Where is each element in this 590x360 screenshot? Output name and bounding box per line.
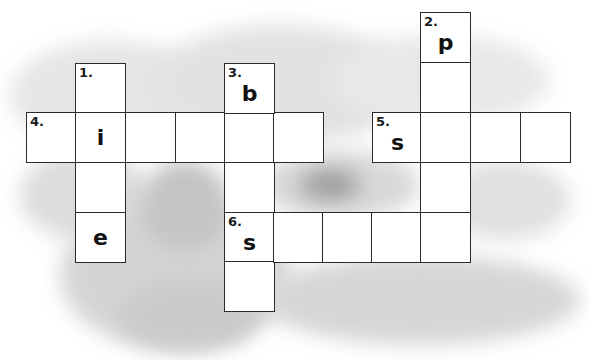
crossword-cell[interactable]: 2.p [420, 12, 471, 63]
crossword-cell[interactable] [420, 212, 471, 263]
crossword-cell[interactable] [322, 212, 373, 263]
crossword-cell[interactable] [273, 212, 324, 263]
clue-number: 2. [424, 14, 438, 29]
clue-number: 6. [228, 214, 242, 229]
clue-number: 5. [376, 114, 390, 129]
crossword-cell[interactable] [224, 112, 275, 163]
clue-number: 1. [79, 65, 93, 80]
given-letter: i [76, 125, 125, 150]
crossword-cell[interactable] [224, 162, 275, 213]
given-letter: s [373, 130, 422, 155]
crossword-cell[interactable]: 4. [26, 112, 77, 163]
crossword-cell[interactable]: 5.s [372, 112, 423, 163]
crossword-cell[interactable] [520, 112, 571, 163]
crossword-cell[interactable] [420, 62, 471, 113]
crossword-cell[interactable] [420, 162, 471, 213]
crossword-cell[interactable] [273, 112, 324, 163]
crossword-cell[interactable]: 6.s [224, 212, 275, 263]
crossword-cell[interactable] [470, 112, 521, 163]
given-letter: b [225, 81, 274, 106]
crossword-cell[interactable]: 3.b [224, 63, 275, 114]
crossword-grid: 1.4.ie3.b6.s2.p5.s [0, 0, 590, 360]
clue-number: 4. [30, 114, 44, 129]
crossword-cell[interactable]: e [75, 212, 126, 263]
crossword-cell[interactable] [125, 112, 176, 163]
crossword-cell[interactable] [224, 261, 275, 312]
clue-number: 3. [228, 65, 242, 80]
crossword-cell[interactable] [175, 112, 226, 163]
given-letter: s [225, 230, 274, 255]
crossword-cell[interactable] [371, 212, 422, 263]
crossword-cell[interactable]: 1. [75, 63, 126, 114]
crossword-cell[interactable] [75, 162, 126, 213]
crossword-cell[interactable] [420, 112, 471, 163]
crossword-cell[interactable]: i [75, 112, 126, 163]
given-letter: e [76, 225, 125, 250]
given-letter: p [421, 30, 470, 55]
